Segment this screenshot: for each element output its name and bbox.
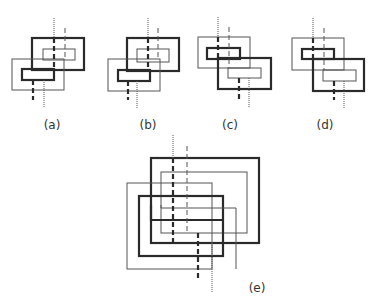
- figure-label-e: (e): [249, 281, 266, 295]
- knot-loop-b-2: [108, 59, 160, 91]
- knot-figure-d: [292, 18, 364, 108]
- figure-label-c: (c): [222, 118, 238, 132]
- knot-loop-a-2: [12, 59, 64, 90]
- knot-figure-e: [127, 135, 259, 292]
- knot-figure-b: [108, 18, 179, 108]
- knot-loop-c-3: [228, 68, 261, 78]
- knot-loop-d-1: [302, 49, 334, 59]
- knot-loop-e-0: [151, 158, 259, 243]
- knot-diagram-canvas: [0, 0, 375, 306]
- knot-loop-b-0: [127, 38, 179, 71]
- knot-loop-d-0: [292, 38, 344, 70]
- figure-label-b: (b): [140, 118, 157, 132]
- knot-loop-a-1: [43, 49, 75, 60]
- knot-loop-c-0: [198, 37, 250, 68]
- knot-loop-b-1: [137, 49, 169, 62]
- figure-label-a: (a): [44, 118, 61, 132]
- knot-loop-a-0: [32, 38, 84, 70]
- knot-loop-d-3: [323, 70, 356, 81]
- figure-label-d: (d): [317, 118, 334, 132]
- knot-figure-c: [198, 17, 271, 108]
- knot-figure-a: [12, 18, 84, 108]
- knot-loop-c-2: [218, 58, 271, 89]
